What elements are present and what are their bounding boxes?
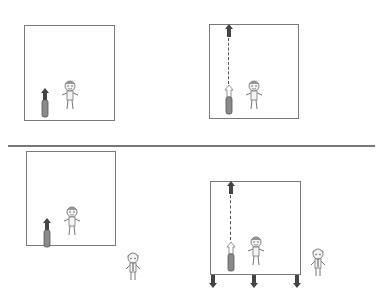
scenario-divider xyxy=(8,145,375,147)
down-arrow-icon xyxy=(208,275,218,289)
rocket-top-position-icon xyxy=(226,181,236,195)
external-observer-icon xyxy=(124,252,142,282)
observer-child-icon xyxy=(61,80,79,112)
down-arrow-icon xyxy=(249,275,259,289)
observer-child-icon xyxy=(245,80,263,112)
external-observer-icon xyxy=(309,248,327,278)
rocket-icon xyxy=(40,88,50,118)
observer-child-icon xyxy=(247,236,265,268)
rocket-icon xyxy=(42,218,52,248)
rocket-launch-position-icon xyxy=(226,242,236,272)
observer-child-icon xyxy=(63,206,81,238)
rocket-launch-position-icon xyxy=(224,85,234,115)
trajectory-dashed-line xyxy=(228,38,229,84)
down-arrow-icon xyxy=(292,275,302,289)
trajectory-dashed-line xyxy=(230,195,231,240)
rocket-top-position-icon xyxy=(224,24,234,38)
